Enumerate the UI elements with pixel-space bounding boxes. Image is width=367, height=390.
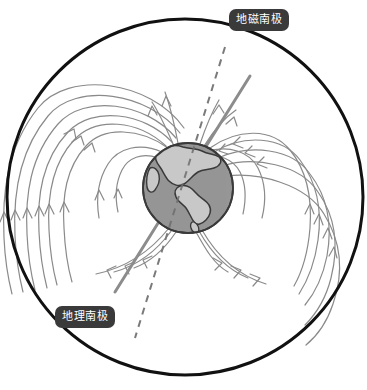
arrowhead-north-right-1	[226, 117, 237, 126]
arrowhead-right-2	[314, 214, 323, 225]
arrowhead-north-right-2	[213, 105, 224, 114]
arrowhead-left-1	[60, 202, 69, 212]
arrowhead-left-3	[35, 206, 44, 216]
arrowhead-left-arc-1	[84, 143, 95, 152]
magnetic-field-diagram: 地磁南极 地理南极	[0, 0, 367, 390]
arrowhead-left-4	[23, 208, 32, 218]
arrowhead-left-2	[45, 204, 54, 214]
arrowhead-left-5	[11, 210, 20, 220]
field-line-south-right-1	[196, 232, 228, 272]
arrowhead-left-inner-1	[95, 190, 104, 200]
field-line-right-3	[218, 150, 329, 305]
arrowhead-left-inner-2	[114, 189, 122, 198]
earth-globe	[143, 143, 233, 233]
diagram-canvas	[0, 0, 367, 390]
arrowhead-right-3	[323, 228, 332, 239]
label-geomagnetic-south-pole[interactable]: 地磁南极	[229, 9, 289, 31]
field-line-right-5	[226, 175, 340, 345]
label-geographic-south-pole[interactable]: 地理南极	[55, 306, 115, 328]
arrowhead-left-arc-2	[72, 136, 84, 145]
field-line-south-left-3	[96, 228, 169, 274]
arrowhead-north-left-2	[162, 96, 171, 106]
arrowhead-right-1	[305, 204, 314, 214]
arrowhead-right-4	[329, 247, 337, 258]
